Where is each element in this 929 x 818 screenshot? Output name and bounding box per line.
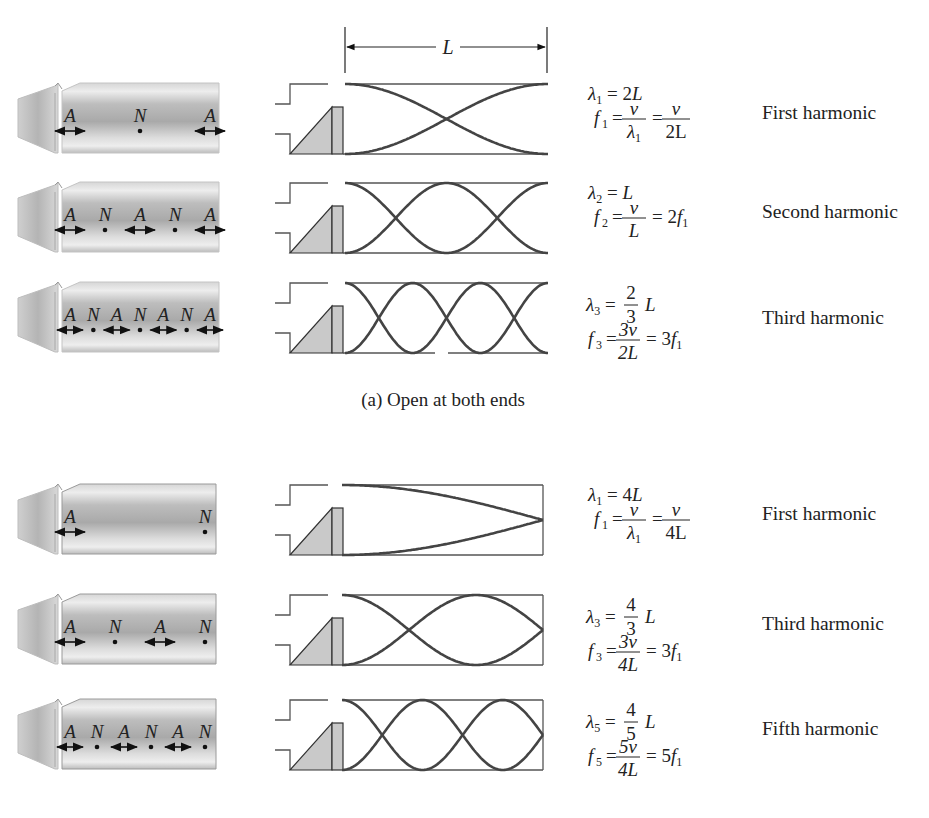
antinode-label: A — [132, 204, 146, 225]
node-dot — [203, 640, 208, 645]
section-a-caption: (a) Open at both ends — [361, 389, 525, 411]
wave-schematic — [275, 283, 548, 353]
node-dot — [91, 328, 96, 333]
wave-schematic — [275, 595, 543, 665]
node-dot — [173, 228, 178, 233]
antinode-label: A — [116, 721, 130, 742]
svg-text:4L: 4L — [618, 654, 638, 675]
svg-text:1: 1 — [602, 117, 608, 131]
svg-text:2L: 2L — [665, 121, 686, 142]
antinode-label: A — [109, 304, 123, 325]
standing-wave-curve — [345, 84, 548, 154]
antinode-label: A — [62, 721, 76, 742]
harmonic-equations: λ2 = Lf2=vL= 2f1 — [587, 182, 688, 241]
svg-text:v: v — [672, 98, 681, 119]
harmonic-row: ANAλ1 = 2Lf1=vλ1=v2LFirst harmonic — [18, 83, 877, 154]
svg-text:=: = — [612, 508, 623, 529]
node-label: N — [98, 204, 113, 225]
svg-text:v: v — [630, 197, 639, 218]
node-label: N — [198, 721, 213, 742]
svg-text:λ1: λ1 — [626, 522, 641, 546]
svg-text:2: 2 — [602, 216, 608, 230]
svg-text:3: 3 — [596, 650, 602, 664]
wavelength-equation: λ3 = — [585, 294, 616, 318]
node-label: N — [86, 304, 101, 325]
svg-text:L: L — [628, 220, 640, 241]
svg-text:5: 5 — [596, 755, 602, 769]
node-label: N — [198, 506, 213, 527]
antinode-label: A — [62, 616, 76, 637]
node-dot — [149, 745, 154, 750]
antinode-label: A — [156, 304, 170, 325]
antinode-label: A — [202, 204, 216, 225]
harmonic-row: ANANAλ2 = Lf2=vL= 2f1Second harmonic — [18, 182, 898, 253]
node-dot — [138, 328, 143, 333]
length-dimension: L — [345, 27, 547, 73]
svg-text:L: L — [644, 606, 656, 627]
frequency-equation: f — [594, 206, 602, 227]
svg-text:=: = — [606, 745, 617, 766]
antinode-label: A — [152, 616, 166, 637]
wave-schematic — [275, 183, 548, 253]
node-dot — [184, 328, 189, 333]
wave-schematic — [275, 84, 548, 154]
frequency-equation: f — [588, 640, 596, 661]
svg-text:L: L — [644, 294, 656, 315]
harmonic-equations: λ3 = 43Lf3=3v4L= 3f1 — [585, 594, 682, 675]
node-label: N — [144, 721, 159, 742]
svg-text:λ1: λ1 — [626, 121, 641, 145]
svg-text:=: = — [606, 328, 617, 349]
node-label: N — [108, 616, 123, 637]
wave-schematic — [275, 700, 543, 770]
standing-wave-curve — [345, 283, 548, 353]
wavelength-equation: λ5 = — [585, 711, 616, 735]
harmonic-name: Second harmonic — [762, 201, 898, 222]
harmonic-name: First harmonic — [762, 503, 877, 524]
pipe-illustration: AN — [18, 484, 216, 554]
node-label: N — [90, 721, 105, 742]
standing-wave-curve — [345, 183, 548, 253]
standing-wave-curve — [345, 183, 548, 253]
svg-text:=: = — [606, 640, 617, 661]
frequency-equation: f — [588, 328, 596, 349]
harmonic-name: Fifth harmonic — [762, 718, 879, 739]
svg-text:3: 3 — [596, 338, 602, 352]
svg-text:= 5f1: = 5f1 — [646, 745, 682, 769]
node-dot — [113, 640, 118, 645]
node-label: N — [168, 204, 183, 225]
pipe-illustration: ANANA — [18, 182, 225, 252]
node-label: N — [179, 304, 194, 325]
antinode-label: A — [202, 105, 216, 126]
standing-waves-figure: L ANAλ1 = 2Lf1=vλ1=v2LFirst harmonicANAN… — [0, 0, 929, 818]
frequency-equation: f — [588, 745, 596, 766]
svg-text:4L: 4L — [665, 522, 686, 543]
svg-text:=: = — [612, 206, 623, 227]
harmonic-equations: λ3 = 23Lf3=3v2L= 3f1 — [585, 282, 682, 363]
svg-text:v: v — [630, 98, 639, 119]
node-dot — [203, 745, 208, 750]
wave-schematic — [275, 485, 543, 555]
node-dot — [138, 129, 143, 134]
harmonic-name: First harmonic — [762, 102, 877, 123]
svg-text:v: v — [672, 499, 681, 520]
harmonic-row: ANANANAλ3 = 23Lf3=3v2L= 3f1Third harmoni… — [18, 282, 884, 363]
standing-wave-curve — [342, 520, 543, 555]
harmonic-row: ANANλ3 = 43Lf3=3v4L= 3f1Third harmonic — [18, 594, 884, 675]
pipe-illustration: ANA — [18, 83, 225, 153]
antinode-label: A — [62, 105, 76, 126]
harmonic-name: Third harmonic — [762, 613, 884, 634]
harmonic-name: Third harmonic — [762, 307, 884, 328]
svg-text:2L: 2L — [618, 342, 638, 363]
antinode-label: A — [62, 204, 76, 225]
svg-text:4: 4 — [626, 699, 636, 720]
svg-text:= 3f1: = 3f1 — [646, 640, 682, 664]
node-label: N — [133, 304, 148, 325]
standing-wave-curve — [342, 485, 543, 520]
frequency-equation: f — [594, 508, 602, 529]
harmonic-equations: λ1 = 4Lf1=vλ1=v4L — [587, 484, 690, 546]
svg-text:1: 1 — [602, 518, 608, 532]
svg-text:= 3f1: = 3f1 — [646, 328, 682, 352]
node-dot — [95, 745, 100, 750]
length-label: L — [441, 36, 453, 58]
antinode-label: A — [202, 304, 216, 325]
